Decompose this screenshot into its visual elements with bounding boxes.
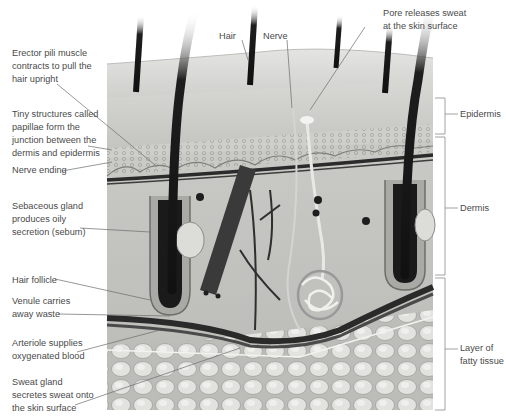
label-epidermis: Epidermis [460,108,501,121]
label-hair-follicle: Hair follicle [12,274,57,287]
label-papillae: Tiny structures called papillae form the… [12,108,100,160]
pore [300,116,314,124]
label-nerve: Nerve [263,30,288,43]
label-erector-pili: Erector pili muscle contracts to pull th… [12,47,92,86]
label-dermis: Dermis [460,202,489,215]
label-nerve-ending: Nerve ending [12,164,67,177]
label-venule: Venule carries away waste [12,295,70,321]
label-hair: Hair [219,30,236,43]
label-pore: Pore releases sweat at the skin surface [383,7,466,33]
label-sweat-gland: Sweat gland secretes sweat onto the skin… [12,376,94,415]
label-sebaceous-gland: Sebaceous gland produces oily secretion … [12,200,86,239]
label-fatty-tissue: Layer of fatty tissue [460,342,504,368]
label-arteriole: Arteriole supplies oxygenated blood [12,337,85,363]
